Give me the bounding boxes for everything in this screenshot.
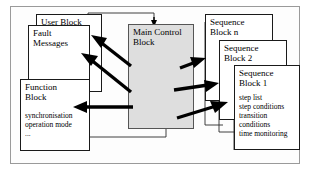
block-fault-messages[interactable]: Fault Messages (28, 25, 90, 82)
block-label-sequence-block-1: Sequence Block 1 (239, 68, 273, 88)
block-detail-sequence-block-1: step list step conditions transition con… (239, 93, 288, 138)
block-sequence-block-1[interactable]: Sequence Block 1 step list step conditio… (234, 65, 300, 150)
block-label-sequence-block-n: Sequence Block n (210, 17, 244, 37)
block-main-control-block[interactable]: Main Control Block (128, 24, 194, 129)
block-function-block[interactable]: Function Block synchronisation operation… (20, 79, 90, 151)
block-label-sequence-block-2: Sequence Block 2 (224, 43, 258, 63)
diagram-canvas: User Block Fault Messages Function Block… (0, 0, 315, 177)
block-label-fault-messages: Fault Messages (33, 28, 68, 48)
block-label-main-control-block: Main Control Block (133, 27, 182, 47)
block-label-function-block: Function Block (25, 82, 57, 102)
block-detail-function-block: synchronisation operation mode ... (25, 111, 73, 138)
